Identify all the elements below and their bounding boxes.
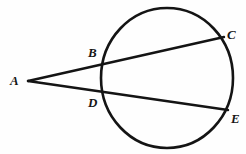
- vertex-label-d: D: [88, 96, 97, 109]
- secant-line-ade: [28, 81, 228, 110]
- secant-line-abc: [28, 37, 224, 81]
- vertex-label-a: A: [10, 74, 19, 87]
- vertex-label-b: B: [88, 46, 97, 59]
- geometry-figure: A B C D E: [0, 0, 246, 154]
- circle-shape: [101, 8, 233, 148]
- geometry-canvas: [0, 0, 246, 154]
- vertex-label-e: E: [231, 112, 240, 125]
- vertex-label-c: C: [227, 28, 236, 41]
